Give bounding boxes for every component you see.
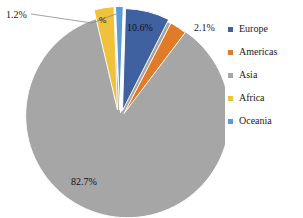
- legend-label-africa: Africa: [239, 93, 265, 103]
- chart-plot-area: 10.6% 2.1% 82.7% % 1.2%: [0, 0, 225, 218]
- legend-label-asia: Asia: [239, 70, 257, 80]
- legend-swatch-oceania: [228, 119, 233, 124]
- legend-item-americas[interactable]: Americas: [228, 41, 303, 63]
- legend-swatch-africa: [228, 96, 233, 101]
- data-label-europe: 10.6%: [127, 22, 153, 33]
- legend-label-europe: Europe: [239, 24, 268, 34]
- legend-swatch-europe: [228, 27, 233, 32]
- pie-svg: [0, 0, 225, 218]
- data-label-americas: 2.1%: [194, 22, 215, 33]
- legend-item-africa[interactable]: Africa: [228, 87, 303, 109]
- legend-item-asia[interactable]: Asia: [228, 64, 303, 86]
- data-label-asia: 82.7%: [71, 176, 97, 187]
- pie-chart-figure: 10.6% 2.1% 82.7% % 1.2% Europe Americas …: [0, 0, 303, 218]
- chart-legend: Europe Americas Asia Africa Oceania: [228, 18, 303, 133]
- legend-label-americas: Americas: [239, 47, 277, 57]
- legend-swatch-americas: [228, 50, 233, 55]
- data-label-oceania: 1.2%: [6, 9, 27, 20]
- legend-swatch-asia: [228, 73, 233, 78]
- legend-label-oceania: Oceania: [239, 116, 272, 126]
- legend-item-oceania[interactable]: Oceania: [228, 110, 303, 132]
- legend-item-europe[interactable]: Europe: [228, 18, 303, 40]
- data-label-africa: %: [99, 15, 107, 25]
